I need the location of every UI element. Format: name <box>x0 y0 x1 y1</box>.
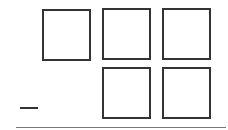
minus-sign-icon <box>20 107 38 109</box>
answer-rule-divider <box>16 127 226 128</box>
bottom-digit-ones <box>164 69 209 117</box>
top-digit-box-ones[interactable] <box>162 8 211 60</box>
top-digit-box-tens[interactable] <box>102 8 151 60</box>
bottom-digit-tens <box>104 69 149 117</box>
top-digit-tens <box>104 10 149 58</box>
top-digit-box-hundreds[interactable] <box>42 9 91 61</box>
bottom-digit-box-ones[interactable] <box>162 67 211 119</box>
top-digit-hundreds <box>44 11 89 59</box>
bottom-digit-box-tens[interactable] <box>102 67 151 119</box>
top-digit-ones <box>164 10 209 58</box>
